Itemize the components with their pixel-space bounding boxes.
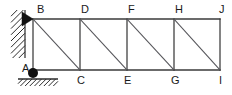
node-labels-group: BDFHJACEGI [22,3,225,86]
diagonal-member-HI [174,19,220,70]
wall-hatch-stroke [11,10,17,16]
diagonal-member-DE [80,19,127,70]
ground-support-group [18,79,58,86]
truss-svg-canvas: BDFHJACEGI [0,0,232,95]
wall-hatch-stroke [19,52,25,58]
pin-support-circle-icon [28,68,38,78]
pin-support-triangle-icon [22,12,33,26]
wall-hatch-stroke [11,33,25,47]
wall-hatch-stroke [11,10,23,22]
wall-hatch-stroke [11,39,25,53]
node-label-C: C [77,74,85,86]
node-label-G: G [171,74,180,86]
diagonal-member-FG [127,19,174,70]
ground-hatch-stroke [53,81,58,86]
wall-hatch-stroke [13,46,25,58]
ground-hatch-stroke [18,79,23,84]
diagonal-member-BC [33,19,80,70]
wall-hatch-stroke [11,27,25,41]
node-label-H: H [175,3,183,15]
node-label-E: E [124,74,131,86]
node-label-I: I [219,74,222,86]
node-label-B: B [37,3,44,15]
ground-hatch-lines [18,79,58,86]
truss-members-group [33,19,220,70]
node-label-F: F [128,3,135,15]
node-label-J: J [219,3,225,15]
truss-diagram: BDFHJACEGI [0,0,232,95]
node-label-D: D [81,3,89,15]
node-label-A: A [22,62,30,74]
